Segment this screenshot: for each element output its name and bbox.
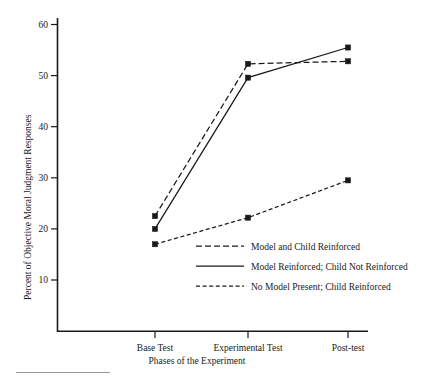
series-no-model-present-child-reinforced — [152, 178, 350, 247]
y-tick-label: 10 — [39, 275, 49, 285]
series-line-short-dashed — [155, 180, 348, 244]
data-point-marker — [345, 59, 350, 64]
y-tick-label: 50 — [39, 71, 49, 81]
series-line-solid — [155, 48, 348, 229]
legend-label: Model and Child Reinforced — [251, 242, 360, 252]
x-axis-ticks — [155, 331, 348, 338]
legend-item-no-model-present-child-reinforced[interactable]: No Model Present; Child Reinforced — [196, 282, 391, 292]
series-model-reinforced-child-not-reinforced — [152, 45, 350, 232]
line-chart: Percent of Objective Moral Judgment Resp… — [0, 0, 433, 383]
x-axis-tick-labels: Base Test Experimental Test Post-test — [137, 343, 365, 353]
data-point-marker — [152, 214, 157, 219]
x-tick-label-post-test: Post-test — [332, 343, 365, 353]
data-point-marker — [152, 242, 157, 247]
legend-item-model-and-child-reinforced[interactable]: Model and Child Reinforced — [196, 242, 360, 252]
series-line-long-dashed — [155, 61, 348, 216]
y-tick-label: 40 — [39, 122, 49, 132]
legend-label: No Model Present; Child Reinforced — [251, 282, 391, 292]
y-axis-tick-labels: 10 20 30 40 50 60 — [39, 20, 49, 286]
chart-legend: Model and Child Reinforced Model Reinfor… — [196, 242, 408, 292]
x-tick-label-base-test: Base Test — [137, 343, 174, 353]
y-tick-label: 30 — [39, 173, 49, 183]
data-point-marker — [345, 178, 350, 183]
series-model-and-child-reinforced — [152, 59, 350, 219]
x-tick-label-experimental-test: Experimental Test — [213, 343, 282, 353]
data-point-marker — [152, 226, 157, 231]
data-point-marker — [245, 215, 250, 220]
x-axis-title: Phases of the Experiment — [149, 356, 246, 366]
y-tick-label: 20 — [39, 224, 49, 234]
y-tick-label: 60 — [39, 20, 49, 30]
data-point-marker — [245, 75, 250, 80]
figure-container: Percent of Objective Moral Judgment Resp… — [0, 0, 433, 383]
legend-item-model-reinforced-child-not-reinforced[interactable]: Model Reinforced; Child Not Reinforced — [196, 262, 408, 272]
data-point-marker — [245, 61, 250, 66]
data-point-marker — [345, 45, 350, 50]
y-axis-ticks — [51, 25, 58, 281]
legend-label: Model Reinforced; Child Not Reinforced — [251, 262, 408, 272]
y-axis-title: Percent of Objective Moral Judgment Resp… — [23, 114, 33, 300]
